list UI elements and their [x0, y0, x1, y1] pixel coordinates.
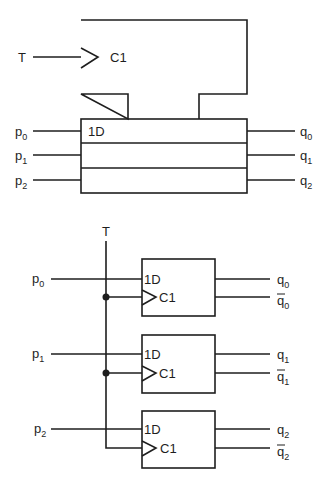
q-label: q0: [277, 272, 289, 290]
control-label: C1: [110, 50, 127, 65]
d-label: 1D: [144, 272, 161, 287]
input-label-p1: p1: [15, 148, 27, 166]
qbar-label: q1: [277, 369, 289, 387]
clock-label: T: [18, 50, 26, 65]
output-label-q1: q1: [300, 148, 312, 166]
q-label: q2: [277, 422, 289, 440]
output-label-q2: q2: [300, 173, 312, 191]
junction-dot: [103, 370, 110, 377]
input-label-p2: p2: [34, 421, 46, 439]
register-diagram: T C1 1D p0 p1 p2 q0 q1 q2 T: [0, 0, 323, 488]
junction-dot: [103, 294, 110, 301]
clock-triangle-icon: [81, 48, 98, 68]
c-label: C1: [159, 290, 176, 305]
d-label: 1D: [144, 422, 161, 437]
symbolic-register: T C1 1D p0 p1 p2 q0 q1 q2: [15, 20, 312, 193]
q-label: q1: [277, 347, 289, 365]
flipflop-box: [142, 411, 215, 468]
flipflop-1: p1 1D C1 q1 q1: [32, 335, 289, 393]
input-label-p0: p0: [32, 271, 44, 289]
c-label: C1: [159, 366, 176, 381]
c-label: C1: [160, 441, 177, 456]
clock-triangle-icon: [142, 290, 156, 305]
control-block: [81, 20, 247, 119]
clock-triangle-icon: [142, 366, 156, 381]
register-body: [81, 119, 247, 193]
output-label-q0: q0: [300, 124, 312, 142]
flipflop-implementation: T p0 1D C1 q0 q0 p1 1D C1: [32, 224, 289, 468]
clock-triangle-icon: [142, 441, 156, 456]
clock-label-bottom: T: [102, 224, 110, 239]
flipflop-box: [142, 335, 215, 393]
input-label-p0: p0: [15, 124, 27, 142]
flipflop-0: p0 1D C1 q0 q0: [32, 259, 289, 316]
flipflop-2: p2 1D C1 q2 q2: [34, 411, 289, 468]
data-label: 1D: [88, 124, 105, 139]
d-label: 1D: [144, 347, 161, 362]
input-label-p1: p1: [32, 346, 44, 364]
input-label-p2: p2: [15, 173, 27, 191]
flipflop-box: [142, 259, 215, 316]
qbar-label: q0: [277, 293, 289, 311]
clock-bus: [106, 241, 142, 448]
qbar-label: q2: [277, 444, 289, 462]
